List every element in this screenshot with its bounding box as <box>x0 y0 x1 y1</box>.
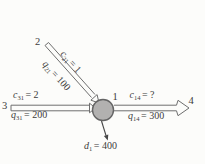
variable-subscript: 14 <box>134 94 141 101</box>
node-1-circle <box>93 100 114 121</box>
node-label-3: 3 <box>2 101 7 112</box>
network-flow-diagram: 2 3 1 4 c21= 1 q21= 100 c31= 2 q31= 200 … <box>0 0 205 164</box>
edge-flow-label-q31: q31= 200 <box>11 110 47 120</box>
variable-subscript: 31 <box>17 94 24 101</box>
variable-subscript: 1 <box>89 145 92 152</box>
node-label-1: 1 <box>113 92 118 103</box>
demand-label-d1: d1= 400 <box>84 141 117 151</box>
edge-cost-label-c31: c31= 2 <box>13 90 39 100</box>
demand-arrow <box>102 121 109 141</box>
node-label-2: 2 <box>35 37 40 48</box>
value-text: = ? <box>142 89 155 100</box>
value-text: = 200 <box>24 109 47 120</box>
edge-cost-label-c14: c14= ? <box>130 90 155 100</box>
variable-subscript: 14 <box>133 115 140 122</box>
node-label-4: 4 <box>189 96 194 107</box>
value-text: = 300 <box>141 110 164 121</box>
value-text: = 2 <box>25 89 38 100</box>
variable-subscript: 31 <box>16 114 23 121</box>
value-text: = 400 <box>94 140 117 151</box>
edge-flow-label-q14: q14= 300 <box>128 111 164 121</box>
